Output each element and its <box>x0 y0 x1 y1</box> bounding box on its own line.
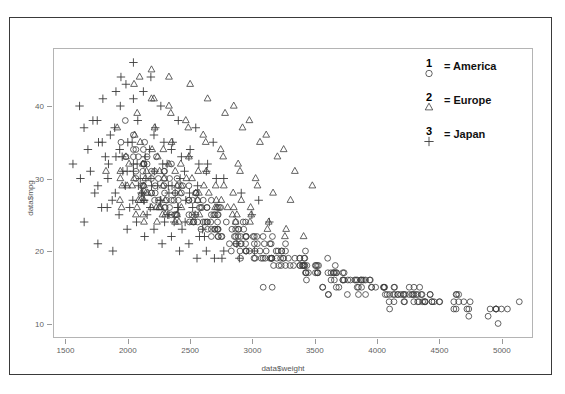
series-america <box>118 118 522 327</box>
x-tick-label: 4000 <box>368 346 386 355</box>
x-tick-label: 2000 <box>119 346 137 355</box>
legend-label: = Japan <box>444 128 485 140</box>
y-tick-mark <box>47 324 52 325</box>
y-tick-label: 40 <box>27 102 44 111</box>
x-tick-mark <box>190 339 191 344</box>
x-tick-mark <box>377 339 378 344</box>
x-axis-title: data$weight <box>261 364 304 373</box>
legend-label: = Europe <box>444 94 491 106</box>
x-tick-label: 5000 <box>493 346 511 355</box>
y-tick-label: 10 <box>27 319 44 328</box>
legend-symbol-circle-icon <box>418 68 440 79</box>
x-tick-mark <box>439 339 440 344</box>
x-tick-mark <box>315 339 316 344</box>
legend-key: 3 <box>418 126 440 147</box>
x-tick-mark <box>128 339 129 344</box>
y-tick-mark <box>47 179 52 180</box>
x-tick-mark <box>65 339 66 344</box>
x-tick-label: 3000 <box>244 346 262 355</box>
x-tick-label: 1500 <box>57 346 75 355</box>
y-tick-label: 20 <box>27 247 44 256</box>
x-tick-label: 3500 <box>306 346 324 355</box>
legend-number: 3 <box>418 126 440 136</box>
x-tick-mark <box>252 339 253 344</box>
y-tick-mark <box>47 106 52 107</box>
chart-page: 1500200025003000350040004500500010203040… <box>0 0 565 394</box>
legend-number: 1 <box>418 58 440 68</box>
legend-symbol-plus-icon <box>418 136 440 147</box>
y-tick-mark <box>47 251 52 252</box>
x-tick-label: 4500 <box>431 346 449 355</box>
x-tick-label: 2500 <box>181 346 199 355</box>
legend-key: 1 <box>418 58 440 79</box>
legend-number: 2 <box>418 92 440 102</box>
legend-key: 2 <box>418 92 440 113</box>
x-tick-mark <box>502 339 503 344</box>
y-axis-title: data$mpg <box>26 180 35 216</box>
legend-symbol-triangle-icon <box>418 102 440 113</box>
legend-label: = America <box>444 60 497 72</box>
